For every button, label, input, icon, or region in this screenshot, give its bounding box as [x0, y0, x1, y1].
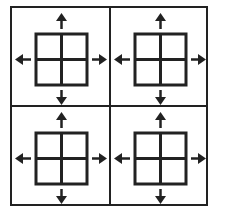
- arrow-right-icon: [198, 153, 206, 164]
- cell-bottom-left: [11, 106, 110, 206]
- arrow-right-icon: [198, 54, 206, 65]
- arrow-up-icon: [155, 13, 166, 21]
- move-grid-icon: [11, 7, 110, 107]
- arrow-down-icon: [56, 97, 67, 105]
- arrow-down-icon: [155, 196, 166, 204]
- arrow-down-icon: [56, 196, 67, 204]
- cell-bottom-right: [110, 106, 209, 206]
- move-grid-icon: [11, 106, 110, 206]
- arrow-up-icon: [155, 112, 166, 120]
- arrow-right-icon: [99, 54, 107, 65]
- cell-top-left: [11, 7, 110, 107]
- arrow-left-icon: [15, 153, 23, 164]
- arrow-up-icon: [56, 112, 67, 120]
- move-grid-icon: [110, 106, 209, 206]
- arrow-left-icon: [114, 153, 122, 164]
- arrow-down-icon: [155, 97, 166, 105]
- arrow-right-icon: [99, 153, 107, 164]
- arrow-left-icon: [15, 54, 23, 65]
- cell-top-right: [110, 7, 209, 107]
- arrow-up-icon: [56, 13, 67, 21]
- arrow-left-icon: [114, 54, 122, 65]
- move-grid-icon: [110, 7, 209, 107]
